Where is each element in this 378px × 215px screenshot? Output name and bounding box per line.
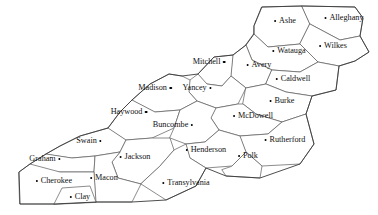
county-name-text: McDowell: [238, 112, 273, 120]
county-seat-dot-icon: [145, 111, 147, 113]
county-label-jackson[interactable]: Jackson: [120, 153, 151, 161]
county-label-mcdowell[interactable]: McDowell: [233, 112, 273, 120]
county-label-transylvania[interactable]: Transylvania: [162, 179, 209, 187]
county-seat-dot-icon: [272, 50, 274, 52]
county-name-text: Avery: [252, 61, 272, 69]
county-seat-dot-icon: [70, 196, 72, 198]
county-seat-dot-icon: [120, 156, 122, 158]
county-name-text: Macon: [95, 174, 118, 182]
county-label-ashe[interactable]: Ashe: [274, 17, 296, 25]
county-label-haywood[interactable]: Haywood: [111, 108, 148, 116]
county-seat-dot-icon: [186, 149, 188, 151]
county-name-text: Transylvania: [167, 179, 209, 187]
county-name-text: Cherokee: [41, 177, 72, 185]
county-seat-dot-icon: [276, 78, 278, 80]
county-seat-dot-icon: [265, 139, 267, 141]
county-seat-dot-icon: [191, 124, 193, 126]
county-name-text: Polk: [243, 152, 258, 160]
county-seat-dot-icon: [233, 115, 235, 117]
county-label-henderson[interactable]: Henderson: [186, 146, 226, 154]
county-seat-dot-icon: [162, 182, 164, 184]
county-name-text: Swain: [76, 137, 96, 145]
county-label-cherokee[interactable]: Cherokee: [36, 177, 72, 185]
county-label-alleghany[interactable]: Alleghany: [325, 14, 364, 22]
county-name-text: Alleghany: [329, 14, 363, 22]
county-name-text: Henderson: [191, 146, 226, 154]
county-label-rutherford[interactable]: Rutherford: [265, 136, 306, 144]
county-name-text: Haywood: [111, 108, 143, 116]
county-name-text: Wilkes: [324, 42, 347, 50]
county-name-text: Graham: [29, 155, 55, 163]
county-seat-dot-icon: [247, 64, 249, 66]
county-name-text: Watauga: [277, 47, 305, 55]
county-label-swain[interactable]: Swain: [76, 137, 101, 145]
county-label-buncombe[interactable]: Buncombe: [153, 121, 193, 129]
county-seat-dot-icon: [90, 177, 92, 179]
county-label-polk[interactable]: Polk: [238, 152, 258, 160]
county-name-text: Madison: [138, 84, 167, 92]
county-label-mitchell[interactable]: Mitchell: [193, 58, 226, 66]
county-seat-dot-icon: [238, 155, 240, 157]
county-name-text: Buncombe: [153, 121, 188, 129]
county-seat-dot-icon: [209, 87, 211, 89]
county-seat-dot-icon: [99, 140, 101, 142]
county-map: AsheAlleghanyWataugaWilkesMitchellAveryC…: [0, 0, 378, 215]
county-name-text: Mitchell: [193, 58, 221, 66]
county-name-text: Jackson: [124, 153, 150, 161]
county-label-layer: AsheAlleghanyWataugaWilkesMitchellAveryC…: [0, 0, 378, 215]
county-name-text: Rutherford: [269, 136, 305, 144]
county-name-text: Yancey: [182, 84, 206, 92]
county-label-graham[interactable]: Graham: [29, 155, 60, 163]
county-name-text: Caldwell: [281, 75, 311, 83]
county-seat-dot-icon: [58, 158, 60, 160]
county-seat-dot-icon: [36, 180, 38, 182]
county-seat-dot-icon: [325, 17, 327, 19]
county-label-avery[interactable]: Avery: [247, 61, 272, 69]
county-label-macon[interactable]: Macon: [90, 174, 118, 182]
county-name-text: Burke: [274, 97, 294, 105]
county-label-wilkes[interactable]: Wilkes: [319, 42, 347, 50]
county-seat-dot-icon: [319, 45, 321, 47]
county-seat-dot-icon: [223, 61, 225, 63]
county-seat-dot-icon: [274, 20, 276, 22]
county-label-madison[interactable]: Madison: [138, 84, 172, 92]
county-seat-dot-icon: [169, 87, 171, 89]
county-label-clay[interactable]: Clay: [70, 193, 90, 201]
county-seat-dot-icon: [270, 100, 272, 102]
county-name-text: Clay: [75, 193, 90, 201]
county-label-burke[interactable]: Burke: [270, 97, 295, 105]
county-label-yancey[interactable]: Yancey: [182, 84, 211, 92]
county-label-caldwell[interactable]: Caldwell: [276, 75, 310, 83]
county-label-watauga[interactable]: Watauga: [272, 47, 305, 55]
county-name-text: Ashe: [279, 17, 296, 25]
